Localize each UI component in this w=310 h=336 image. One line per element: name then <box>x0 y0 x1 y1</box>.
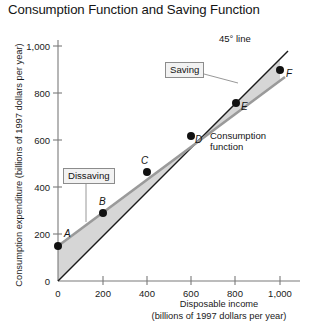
plot-area: 1,000 800 600 400 200 0 0 200 400 600 80… <box>0 0 310 336</box>
data-point-e <box>232 99 240 107</box>
consumption-function-label-line2: function <box>210 142 266 153</box>
data-point-d <box>187 132 195 140</box>
saving-callout: Saving <box>165 62 204 78</box>
x-axis-title-line2: (billions of 1997 dollars per year) <box>130 311 308 323</box>
y-axis-title: Consumption expenditure (billions of 199… <box>14 40 24 290</box>
forty-five-degree-line-label: 45° line <box>219 34 251 45</box>
forty-five-degree-line <box>58 51 288 281</box>
x-tick-label-800: 800 <box>227 288 243 299</box>
point-label-a: A <box>64 228 71 239</box>
x-tick-label-1000: 1,000 <box>268 288 292 299</box>
x-tick-label-0: 0 <box>55 288 60 299</box>
consumption-function-line <box>58 77 285 246</box>
consumption-function-label-line1: Consumption <box>210 131 266 142</box>
point-label-c: C <box>141 155 148 166</box>
data-point-c <box>143 168 151 176</box>
x-tick-label-200: 200 <box>95 288 111 299</box>
data-point-a <box>54 242 62 250</box>
point-label-f: F <box>286 68 292 79</box>
chart-figure: Consumption Function and Saving Function <box>0 0 310 336</box>
x-tick-label-600: 600 <box>183 288 199 299</box>
consumption-function-label: Consumption function <box>210 131 266 152</box>
point-label-e: E <box>241 101 248 112</box>
data-point-b <box>99 209 107 217</box>
x-axis-title: Disposable income (billions of 1997 doll… <box>130 299 308 322</box>
x-tick-label-400: 400 <box>139 288 155 299</box>
x-axis-title-line1: Disposable income <box>130 299 308 311</box>
point-label-d: D <box>195 134 202 145</box>
data-point-f <box>276 66 284 74</box>
saving-leader-line <box>204 74 238 83</box>
dissaving-callout: Dissaving <box>63 168 115 184</box>
point-label-b: B <box>99 196 106 207</box>
